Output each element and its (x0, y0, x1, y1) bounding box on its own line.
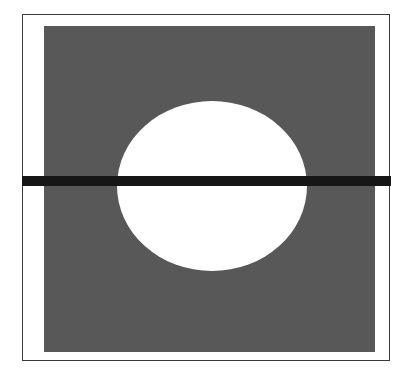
horizontal-black-bar (22, 176, 391, 186)
circular-aperture (117, 101, 307, 271)
